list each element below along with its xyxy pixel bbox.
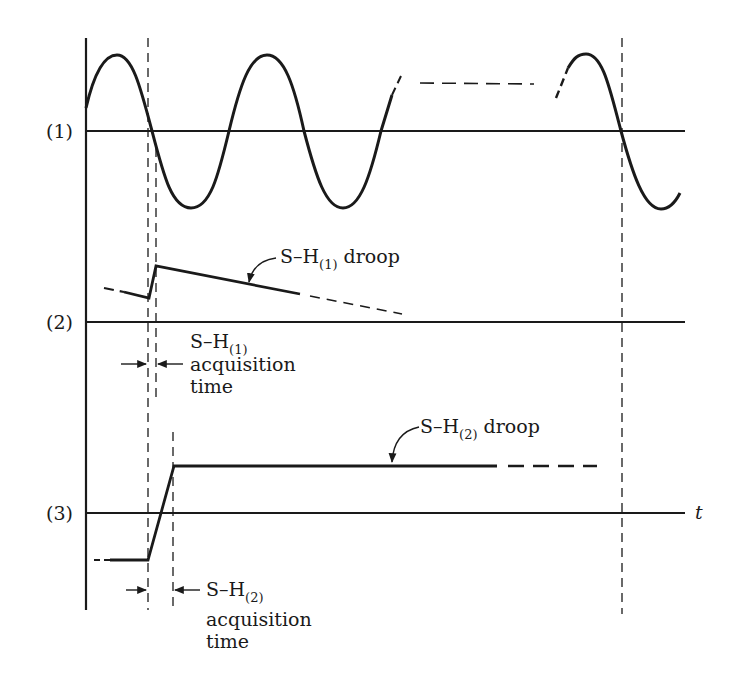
- sh1-droop-label: S–H(1) droop: [280, 245, 400, 272]
- sh1-acq-prefix: S–H: [190, 330, 229, 352]
- sample-hold-timing-diagram: (1) (2) (3) t S–H(1) droop S–H(1) acquis…: [0, 0, 735, 680]
- sh1-acq-label-line2: acquisition: [190, 353, 296, 375]
- sh1-droop-dashed-continuation: [310, 296, 402, 314]
- sh1-output-trace-2: [124, 266, 300, 298]
- sh2-acq-subscript: (2): [245, 590, 263, 605]
- sine-wave-dashed-continuation: [392, 76, 401, 95]
- sh2-acq-label-line3: time: [206, 630, 249, 652]
- sh2-acq-label-line2: acquisition: [206, 608, 312, 630]
- time-axis-label: t: [695, 501, 703, 523]
- sine-wave-time-break: [420, 83, 534, 84]
- sh2-droop-prefix: S–H: [420, 415, 459, 437]
- sine-wave-dashed-resume: [556, 68, 568, 98]
- sh1-acq-label-line3: time: [190, 375, 233, 397]
- sh2-droop-label: S–H(2) droop: [420, 415, 540, 442]
- sh1-previous-hold-dashed: [104, 288, 124, 292]
- sh1-droop-suffix: droop: [338, 245, 400, 267]
- sh1-droop-pointer-arrow: [249, 258, 276, 282]
- sh2-acq-prefix: S–H: [206, 578, 245, 600]
- sh1-droop-subscript: (1): [319, 257, 337, 272]
- sh1-droop-prefix: S–H: [280, 245, 319, 267]
- sh2-droop-pointer-arrow: [392, 427, 419, 462]
- trace-label-1: (1): [46, 120, 73, 142]
- trace-label-3: (3): [46, 502, 73, 524]
- trace-label-2: (2): [46, 311, 73, 333]
- sh2-droop-suffix: droop: [478, 415, 540, 437]
- sh2-acq-label-line1: S–H(2): [206, 578, 264, 605]
- sh2-droop-subscript: (2): [459, 427, 477, 442]
